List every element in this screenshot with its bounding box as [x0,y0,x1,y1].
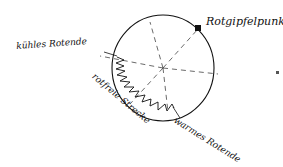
cool-end-leader [104,52,117,56]
label-red-peak-point: Rotgipfelpunkt [206,16,283,27]
peak-marker [195,25,201,31]
color-circle-diagram: Rotgipfelpunkt kühles Rotende rotfreie S… [0,0,283,167]
stray-mark [276,71,279,74]
